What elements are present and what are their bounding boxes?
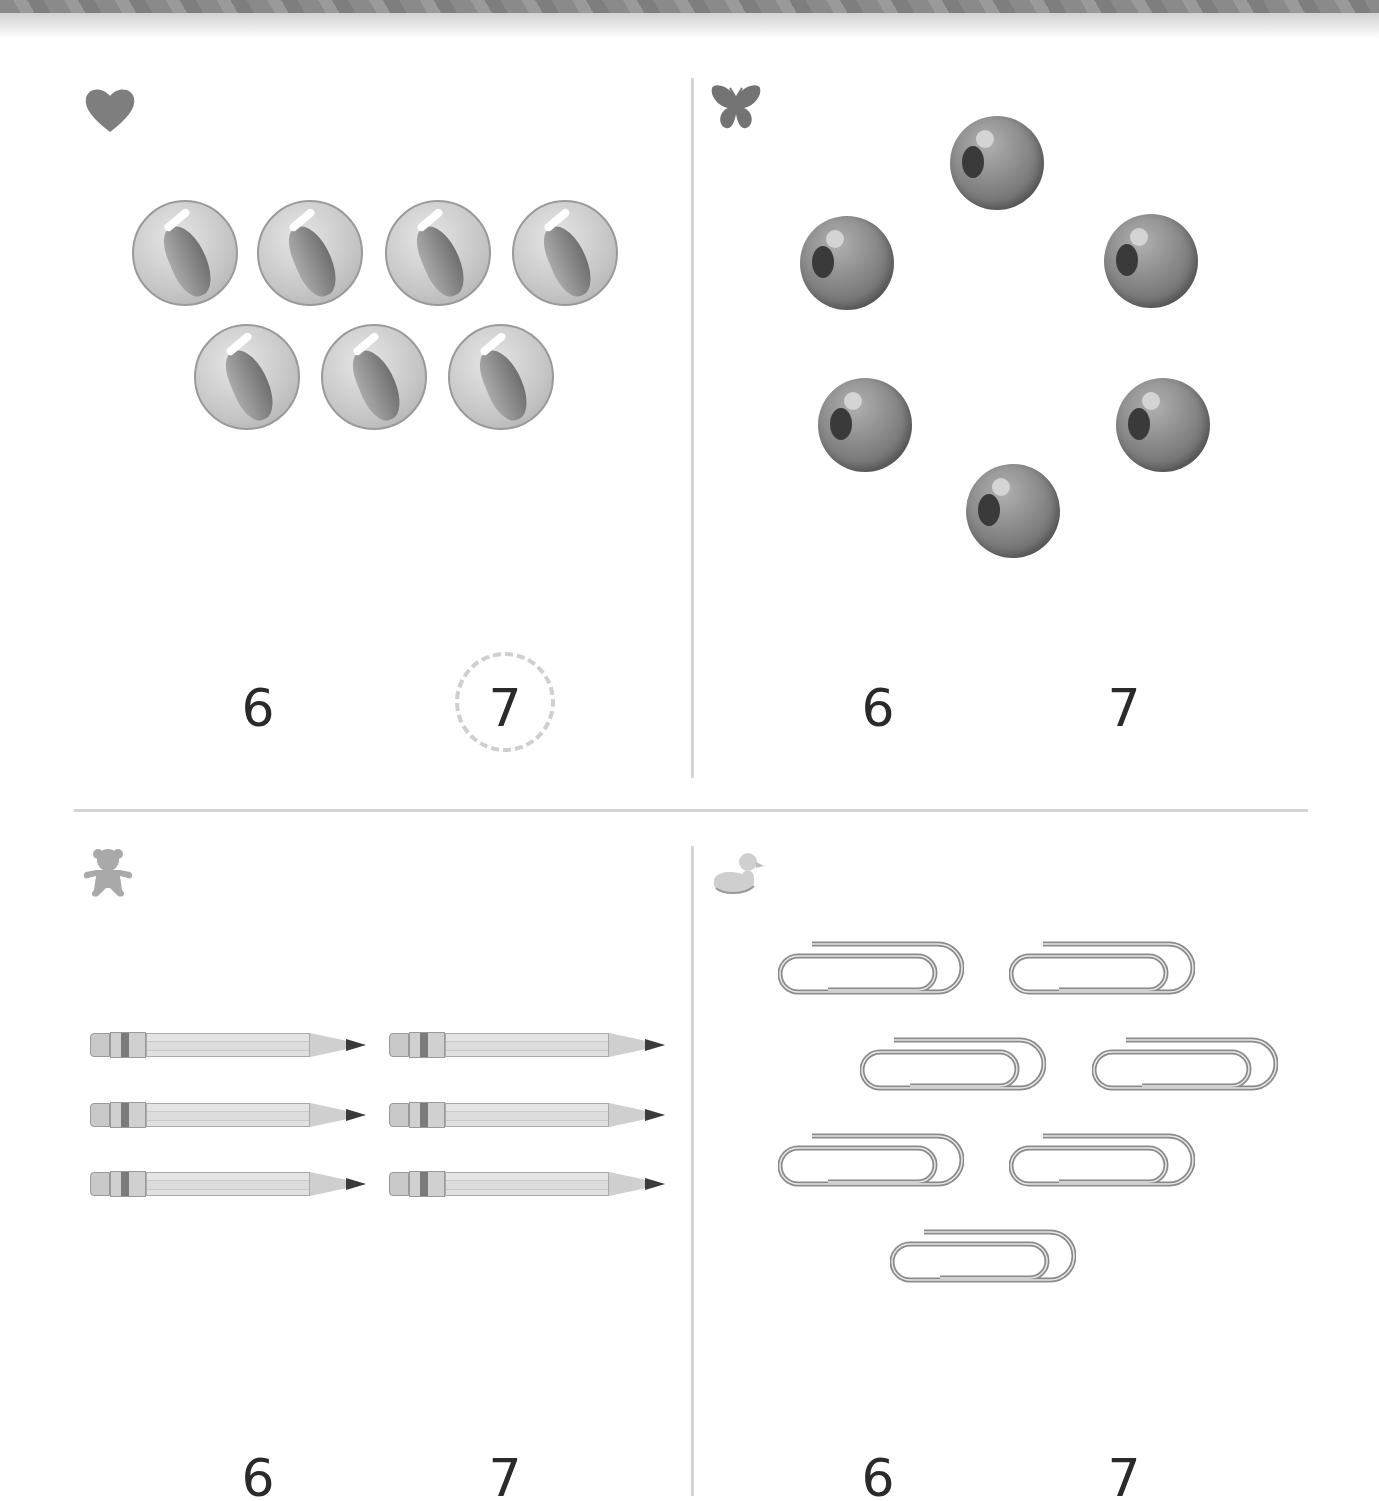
paper-clip	[860, 1036, 1046, 1092]
choice-6[interactable]: 6	[848, 682, 908, 734]
pencil	[389, 1102, 665, 1128]
paper-clip	[778, 1132, 964, 1188]
pencil	[90, 1032, 366, 1058]
paper-clip	[1092, 1036, 1278, 1092]
pencil	[389, 1171, 665, 1197]
decorative-header-band	[0, 0, 1379, 13]
marble	[448, 324, 554, 430]
duck-icon	[710, 848, 766, 904]
bead	[950, 116, 1044, 210]
marble	[132, 200, 238, 306]
marble	[257, 200, 363, 306]
heart-icon	[82, 82, 138, 138]
choice-6[interactable]: 6	[228, 1452, 288, 1501]
paper-clip	[778, 940, 964, 996]
marble	[321, 324, 427, 430]
bead	[1104, 214, 1198, 308]
choice-7[interactable]: 7	[475, 682, 535, 734]
choice-7[interactable]: 7	[1094, 1452, 1154, 1501]
bead	[966, 464, 1060, 558]
choice-7[interactable]: 7	[475, 1452, 535, 1501]
paper-clip	[1009, 1132, 1195, 1188]
vertical-divider-top	[691, 78, 694, 778]
marble	[194, 324, 300, 430]
horizontal-divider	[74, 809, 1308, 812]
marble	[512, 200, 618, 306]
pencil	[389, 1032, 665, 1058]
bead	[1116, 378, 1210, 472]
paper-clip	[890, 1228, 1076, 1284]
paper-clip	[1009, 940, 1195, 996]
butterfly-icon	[708, 80, 764, 136]
pencil	[90, 1102, 366, 1128]
choice-7[interactable]: 7	[1094, 682, 1154, 734]
choice-6[interactable]: 6	[228, 682, 288, 734]
pencil	[90, 1171, 366, 1197]
choice-6[interactable]: 6	[848, 1452, 908, 1501]
header-fade	[0, 13, 1379, 39]
teddy-bear-icon	[80, 846, 136, 902]
marble	[385, 200, 491, 306]
vertical-divider-bottom	[691, 846, 694, 1496]
bead	[800, 216, 894, 310]
bead	[818, 378, 912, 472]
